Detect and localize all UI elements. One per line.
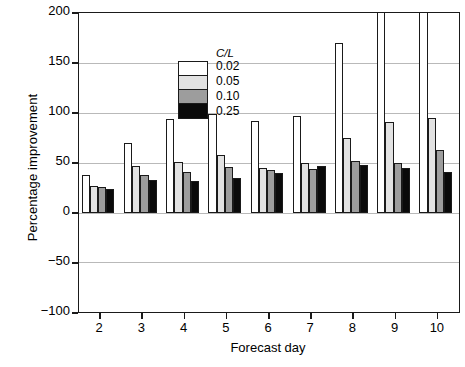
y-tick-label-0: 0 [24,203,70,218]
bars-clip-region [79,13,459,213]
legend-swatch-0 [179,62,207,76]
bar-day5-cl0.05 [217,155,225,213]
bar-day10-cl0.02 [419,13,427,213]
bar-day4-cl0.10 [183,172,191,213]
y-tick-label-150: 150 [24,53,70,68]
y-tick-label--100: −100 [24,303,70,318]
y-tick-label-200: 200 [24,3,70,18]
bar-day2-cl0.10 [98,187,106,213]
bar-day7-cl0.10 [309,169,317,213]
bar-day8-cl0.10 [351,161,359,213]
bar-day9-cl0.10 [394,163,402,213]
x-tick-mark-4 [184,313,186,319]
x-tick-mark-9 [395,313,397,319]
bar-day9-cl0.25 [402,168,410,213]
bar-day7-cl0.25 [317,166,325,213]
x-tick-label-10: 10 [424,320,450,335]
x-tick-label-3: 3 [128,320,154,335]
x-tick-mark-5 [226,313,228,319]
bar-day2-cl0.05 [90,186,98,213]
bar-day6-cl0.10 [267,170,275,213]
x-tick-mark-10 [437,313,439,319]
bar-day6-cl0.25 [275,173,283,213]
bar-day9-cl0.02 [377,13,385,213]
bar-day7-cl0.05 [301,163,309,213]
x-tick-mark-3 [141,313,143,319]
x-tick-label-9: 9 [382,320,408,335]
bar-day2-cl0.25 [106,189,114,213]
bar-day4-cl0.05 [174,162,182,213]
y-tick-label--50: −50 [24,253,70,268]
x-tick-label-4: 4 [171,320,197,335]
legend-label-0: 0.02 [216,59,239,73]
x-tick-mark-7 [310,313,312,319]
legend-swatch-1 [179,76,207,90]
plot-area: C/L 0.02 0.05 0.10 0.25 [78,12,460,213]
legend-label-3: 0.25 [216,104,239,118]
bar-day7-cl0.02 [293,116,301,213]
bar-day10-cl0.05 [428,118,436,213]
y-tick-label-50: 50 [24,153,70,168]
x-axis-title: Forecast day [78,340,458,355]
bar-day3-cl0.02 [124,143,132,213]
x-tick-mark-8 [352,313,354,319]
bar-day9-cl0.05 [385,122,393,213]
legend-title: C/L [216,47,234,59]
bar-day3-cl0.10 [140,175,148,213]
bar-chart-figure: Percentage improvement 200150100500−50−1… [0,0,465,367]
bar-day10-cl0.10 [436,150,444,213]
legend-swatches [178,61,208,119]
bar-day4-cl0.25 [191,181,199,213]
bar-day8-cl0.25 [360,165,368,213]
bar-day5-cl0.02 [208,114,216,213]
x-tick-label-6: 6 [255,320,281,335]
x-tick-label-2: 2 [86,320,112,335]
legend-label-2: 0.10 [216,89,239,103]
x-tick-mark-6 [268,313,270,319]
x-tick-mark-2 [99,313,101,319]
bar-day3-cl0.05 [132,166,140,213]
y-tick-label-100: 100 [24,103,70,118]
plot-area-negative [78,212,460,313]
bar-day4-cl0.02 [166,119,174,213]
legend-swatch-3 [179,104,207,118]
x-tick-label-7: 7 [297,320,323,335]
bar-day2-cl0.02 [82,175,90,213]
gridline-minus50 [79,262,459,263]
bar-day6-cl0.02 [251,121,259,213]
legend-label-1: 0.05 [216,74,239,88]
bar-day8-cl0.02 [335,43,343,213]
bar-day10-cl0.25 [444,172,452,213]
bar-day6-cl0.05 [259,168,267,213]
x-tick-label-5: 5 [213,320,239,335]
bar-day5-cl0.25 [233,178,241,213]
x-tick-label-8: 8 [339,320,365,335]
bar-day8-cl0.05 [343,138,351,213]
bar-day3-cl0.25 [149,180,157,213]
legend-swatch-2 [179,90,207,104]
bar-day5-cl0.10 [225,167,233,213]
